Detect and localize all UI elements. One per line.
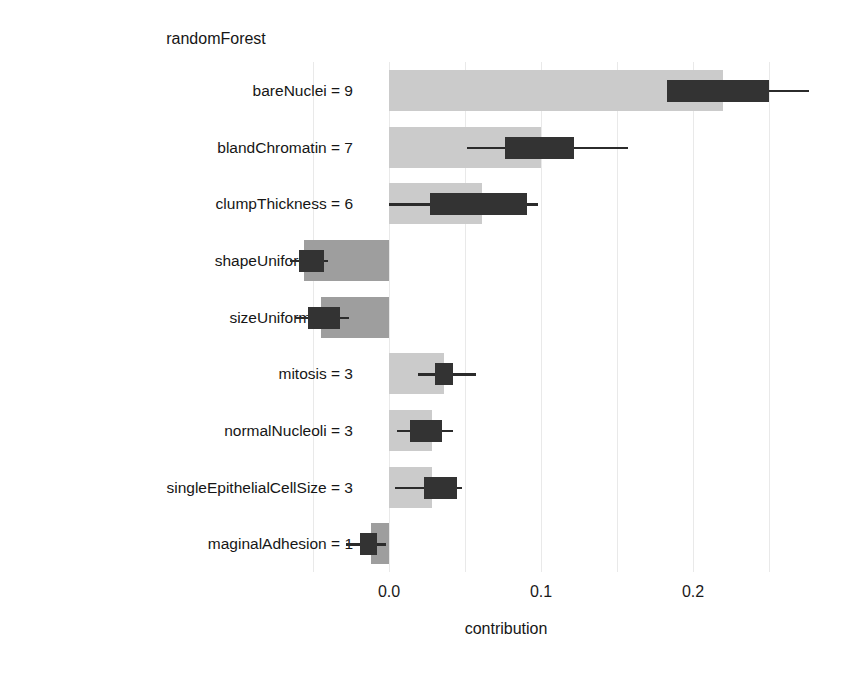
category-label: mitosis = 3 bbox=[0, 365, 353, 383]
bar-row: shapeUniformity = 1 bbox=[0, 232, 852, 289]
x-tick-label: 0.1 bbox=[530, 583, 552, 601]
bar-row: clumpThickness = 6 bbox=[0, 175, 852, 232]
chart-container: randomForest bareNuclei = 9blandChromati… bbox=[0, 0, 852, 683]
x-axis-label: contribution bbox=[80, 620, 852, 638]
bar-row: blandChromatin = 7 bbox=[0, 119, 852, 176]
category-label: blandChromatin = 7 bbox=[0, 139, 353, 157]
boxplot-box bbox=[299, 250, 323, 272]
x-tick-label: 0.0 bbox=[378, 583, 400, 601]
bar-row: maginalAdhesion = 1 bbox=[0, 515, 852, 572]
plot-area: bareNuclei = 9blandChromatin = 7clumpThi… bbox=[0, 62, 852, 572]
category-label: clumpThickness = 6 bbox=[0, 195, 353, 213]
bar-row: singleEpithelialCellSize = 3 bbox=[0, 459, 852, 516]
category-label: maginalAdhesion = 1 bbox=[0, 535, 353, 553]
boxplot-box bbox=[505, 137, 575, 159]
chart-title: randomForest bbox=[0, 30, 642, 48]
boxplot-box bbox=[430, 193, 527, 215]
boxplot-box bbox=[667, 80, 769, 102]
boxplot-box bbox=[410, 420, 442, 442]
bar-row: bareNuclei = 9 bbox=[0, 62, 852, 119]
boxplot-box bbox=[308, 307, 340, 329]
x-tick-label: 0.2 bbox=[682, 583, 704, 601]
category-label: bareNuclei = 9 bbox=[0, 82, 353, 100]
bar-row: normalNucleoli = 3 bbox=[0, 402, 852, 459]
boxplot-box bbox=[360, 533, 377, 555]
bar-row: mitosis = 3 bbox=[0, 345, 852, 402]
category-label: singleEpithelialCellSize = 3 bbox=[0, 479, 353, 497]
category-label: normalNucleoli = 3 bbox=[0, 422, 353, 440]
boxplot-box bbox=[435, 363, 453, 385]
boxplot-box bbox=[424, 477, 457, 499]
bar-row: sizeUniformity = 1 bbox=[0, 289, 852, 346]
